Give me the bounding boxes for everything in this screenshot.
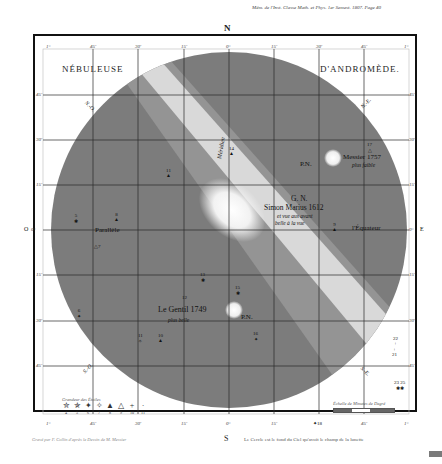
tick-right-6: 30': [409, 318, 415, 323]
tick-top-8: 1°: [404, 44, 409, 49]
star-mag9-icon: △: [118, 402, 124, 410]
star-mag7-icon: ✧: [96, 402, 103, 410]
title-left: NÉBULEUSE: [62, 64, 124, 74]
circle-note: Le Cercle est le fond du Ciel qu'avoit l…: [244, 437, 364, 442]
tick-right-3: 15': [409, 182, 415, 187]
tick-left-3: 15': [36, 182, 42, 187]
magnitude-legend: ✮4 ✯5 ✦6 ✧7 ▲8 △9 +10 ·11: [62, 402, 147, 415]
star-13: 13✱: [200, 272, 205, 283]
legend-item-5: ✯5: [73, 402, 81, 415]
star-17: 17△: [367, 142, 372, 153]
center-name: Simon Marius 1612: [264, 203, 324, 212]
tick-left-7: 45': [36, 363, 42, 368]
tick-left-4: 0°: [31, 227, 36, 232]
tick-top-6: 30': [316, 44, 322, 49]
south-label: S: [224, 434, 228, 443]
legend-item-10: +10: [128, 402, 136, 415]
messier-label: Messier 1757: [343, 153, 381, 161]
scale-title: Échelle de Minutes de Degré: [333, 401, 385, 406]
star-18: ✦18: [313, 420, 322, 426]
tick-left-2: 30': [36, 137, 42, 142]
tick-right-2: 30': [409, 137, 415, 142]
star-6: 6✦: [77, 308, 81, 319]
star-5: 5✱: [74, 213, 78, 224]
tick-bottom-5: 15': [271, 421, 277, 426]
tick-bottom-3: 15': [181, 421, 187, 426]
star-7: △7: [94, 243, 101, 249]
star-10: 10▲: [158, 333, 163, 343]
parallel-label: Parallèle: [95, 226, 120, 234]
tick-top-4: 0°: [226, 44, 231, 49]
star-mag6-icon: ✦: [85, 402, 92, 410]
tick-right-7: 45': [409, 363, 415, 368]
tick-top-1: 45': [90, 44, 96, 49]
tick-right-4: 0°: [409, 227, 414, 232]
tick-top-5: 15': [271, 44, 277, 49]
legentil-note: plus belle: [168, 317, 189, 323]
legentil-label: Le Gentil 1749: [158, 305, 206, 314]
center-note2: belle à la vue: [275, 220, 304, 226]
star-15: 15✱: [235, 285, 240, 296]
tick-bottom-0: 1°: [46, 421, 51, 426]
tick-top-3: 15': [181, 44, 187, 49]
legend-item-8: ▲8: [106, 402, 114, 415]
legend-item-9: △9: [117, 402, 125, 415]
engraver-credit: Gravé par F. Collin d'après le Dessin de…: [32, 437, 126, 442]
center-gn: G. N.: [291, 194, 307, 203]
legend-item-7: ✧7: [95, 402, 103, 415]
legend-item-6: ✦6: [84, 402, 92, 415]
tick-top-0: 1°: [46, 44, 51, 49]
star-22: 22+: [393, 336, 398, 346]
scale-bar: [333, 408, 395, 413]
messier-nebula: [324, 149, 342, 167]
tick-left-6: 30': [36, 318, 42, 323]
legend-item-4: ✮4: [62, 402, 70, 415]
star-mag4-icon: ✮: [63, 402, 70, 410]
tick-right-1: 45': [409, 92, 415, 97]
title-right: D'ANDROMÈDE.: [320, 64, 400, 74]
star-mag10-icon: +: [130, 402, 135, 410]
west-label: O: [24, 226, 28, 232]
star-11b: 11✧: [138, 333, 143, 344]
legend-item-11: ·11: [139, 402, 147, 415]
star-mag5-icon: ✯: [74, 402, 81, 410]
tick-top-7: 45': [361, 44, 367, 49]
tick-left-1: 45': [36, 92, 42, 97]
equator-label: l'Équateur: [352, 224, 380, 232]
east-label: E: [420, 226, 424, 232]
star-16: 16✦: [253, 331, 258, 342]
tick-bottom-8: 1°: [404, 421, 409, 426]
tick-right-5: 15': [409, 272, 415, 277]
star-21: +21: [392, 347, 397, 357]
gray-bar: [429, 451, 442, 457]
star-mag8-icon: ▲: [106, 402, 114, 410]
tick-top-2: 30': [135, 44, 141, 49]
star-9: 9▲: [332, 222, 337, 232]
star-11a: 11▲: [166, 168, 171, 178]
tick-bottom-7: 45': [361, 421, 367, 426]
tick-bottom-1: 45': [90, 421, 96, 426]
messier-pn: P.N.: [300, 160, 312, 168]
legentil-pn: P.N.: [241, 313, 253, 321]
star-mag11-icon: ·: [142, 402, 145, 410]
tick-bottom-2: 30': [135, 421, 141, 426]
tick-bottom-4: 0°: [226, 421, 231, 426]
messier-note: plus faible: [352, 162, 375, 168]
tick-left-5: 15': [36, 272, 42, 277]
center-note1: et vue aus avant: [277, 213, 313, 219]
star-8: 8▲: [114, 212, 119, 222]
star-23-25: 23 25✱✱: [394, 380, 405, 391]
star-12: 12: [182, 295, 187, 300]
star-14: 14▲: [229, 146, 234, 156]
